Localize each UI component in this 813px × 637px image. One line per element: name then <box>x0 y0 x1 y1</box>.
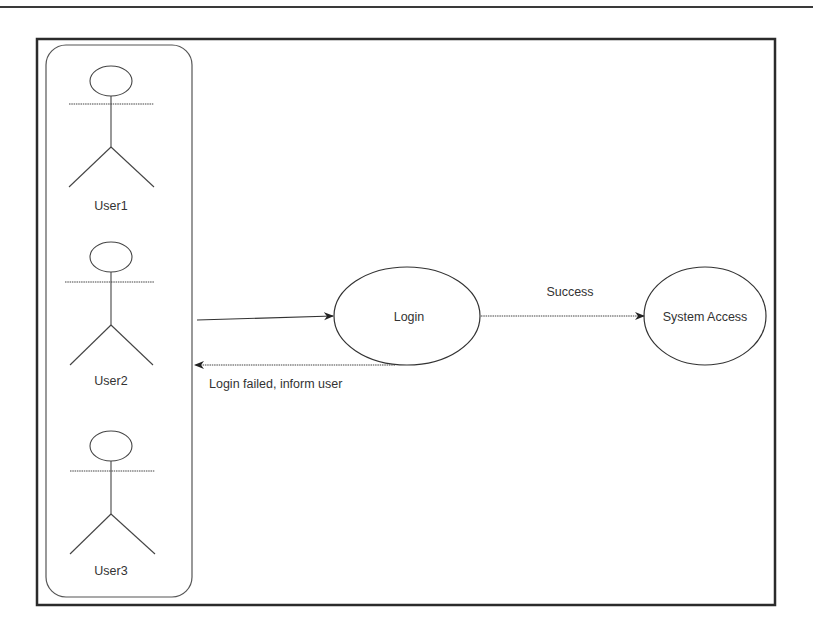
actor-user1-figure[interactable] <box>69 66 154 187</box>
usecase-system-access-label: System Access <box>663 310 748 324</box>
actor-user3-label: User3 <box>94 564 127 578</box>
actor-user2-figure[interactable] <box>65 242 154 365</box>
actor-container <box>46 45 192 597</box>
actor-user3-figure[interactable] <box>70 431 155 554</box>
edge-login-failed-label: Login failed, inform user <box>209 377 342 391</box>
actor-user1-label: User1 <box>94 199 127 213</box>
edge-success-label: Success <box>546 285 593 299</box>
edge-actors-to-login <box>197 316 333 320</box>
usecase-login-label: Login <box>394 310 425 324</box>
actor-user2-label: User2 <box>94 374 127 388</box>
